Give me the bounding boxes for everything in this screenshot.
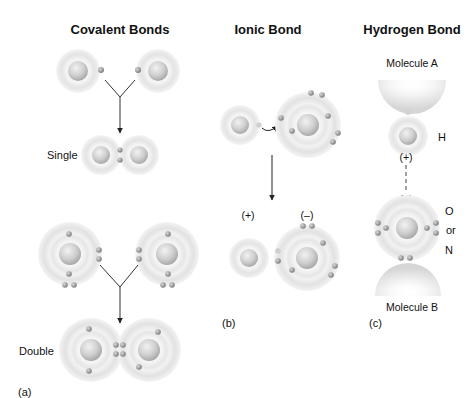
merge-arrow-single [105, 80, 135, 133]
h-label: H [438, 131, 446, 143]
chloride-ion [274, 223, 340, 291]
panel-label-c: (c) [369, 317, 382, 329]
covalent-title: Covalent Bonds [71, 22, 170, 37]
or-label: or [446, 224, 456, 236]
o-or-n-atom [374, 195, 440, 261]
single-bond-molecule [81, 135, 159, 175]
panel-label-a: (a) [18, 386, 31, 398]
molecule-a-shape [378, 80, 446, 114]
covalent-panel: Covalent Bonds Single [18, 22, 199, 398]
ionic-negative-label: (–) [301, 209, 314, 221]
double-label: Double [19, 345, 54, 357]
ionic-panel: Ionic Bond (+) (–) [220, 22, 341, 329]
double-bond-molecule [59, 318, 181, 382]
sodium-atom [220, 105, 262, 145]
chlorine-atom [275, 90, 341, 158]
n-label: N [445, 244, 453, 256]
oxygen-atom-left [38, 222, 102, 288]
molecule-b-label: Molecule B [386, 301, 438, 313]
sodium-ion [229, 238, 269, 278]
hydrogen-atom-left [56, 49, 104, 93]
o-label: O [445, 205, 454, 217]
hydrogen-atom-right [135, 49, 180, 93]
molecule-a-label: Molecule A [386, 57, 437, 69]
shared-electron [405, 109, 411, 115]
hydrogen-title: Hydrogen Bond [363, 22, 461, 37]
molecule-b-shape [375, 263, 441, 296]
bond-types-diagram: Covalent Bonds Single [0, 0, 475, 398]
panel-label-b: (b) [222, 317, 235, 329]
hydrogen-panel: Hydrogen Bond Molecule A H (+) (–) O or … [363, 22, 461, 329]
single-label: Single [47, 149, 78, 161]
h-atom [388, 116, 428, 156]
oxygen-atom-right [135, 222, 199, 288]
ionic-positive-label: (+) [241, 209, 254, 221]
ionic-title: Ionic Bond [234, 22, 301, 37]
merge-arrow-double [100, 265, 138, 323]
hbond-positive-label: (+) [399, 151, 412, 163]
